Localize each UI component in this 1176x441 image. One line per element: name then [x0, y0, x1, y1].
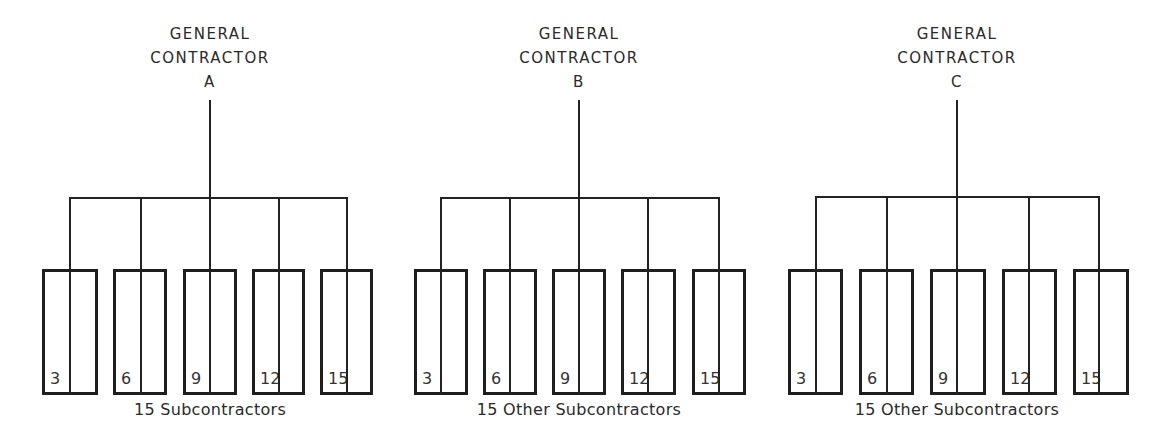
connector-drop — [509, 197, 511, 395]
connector-bar — [816, 196, 1100, 198]
contractor-letter: B — [479, 70, 679, 94]
contractor-letter: A — [110, 70, 310, 94]
subcontractor-count-label: 6 — [867, 369, 877, 388]
subcontractor-count-label: 9 — [938, 369, 948, 388]
title-line: CONTRACTOR — [857, 46, 1057, 70]
subcontractor-count-label: 6 — [491, 369, 501, 388]
contractor-org-diagram: GENERALCONTRACTORA369121515 Subcontracto… — [0, 0, 1176, 441]
subcontractor-box: 9 — [930, 269, 986, 395]
general-contractor-title: GENERALCONTRACTORC — [857, 22, 1057, 94]
connector-drop — [140, 197, 142, 395]
subcontractor-box: 15 — [1073, 269, 1129, 395]
connector-drop — [647, 197, 649, 395]
title-line: GENERAL — [110, 22, 310, 46]
title-line: GENERAL — [857, 22, 1057, 46]
connector-stem — [209, 100, 211, 197]
connector-stem — [956, 100, 958, 196]
subcontractor-box: 12 — [1002, 269, 1057, 395]
connector-drop — [209, 197, 211, 395]
title-line: CONTRACTOR — [110, 46, 310, 70]
subcontractor-count-label: 3 — [796, 369, 806, 388]
subcontractors-caption: 15 Subcontractors — [60, 400, 360, 419]
connector-drop — [440, 197, 442, 395]
connector-drop — [956, 196, 958, 395]
subcontractor-count-label: 9 — [560, 369, 570, 388]
subcontractor-box: 12 — [621, 269, 676, 395]
connector-drop — [1098, 196, 1100, 395]
subcontractor-count-label: 3 — [422, 369, 432, 388]
subcontractor-count-label: 9 — [191, 369, 201, 388]
connector-bar — [441, 197, 720, 199]
title-line: GENERAL — [479, 22, 679, 46]
connector-drop — [815, 196, 817, 395]
connector-drop — [346, 197, 348, 395]
subcontractor-count-label: 6 — [121, 369, 131, 388]
subcontractor-count-label: 3 — [50, 369, 60, 388]
title-line: CONTRACTOR — [479, 46, 679, 70]
connector-drop — [1028, 196, 1030, 395]
connector-drop — [718, 197, 720, 395]
general-contractor-title: GENERALCONTRACTORA — [110, 22, 310, 94]
connector-drop — [578, 197, 580, 395]
subcontractors-caption: 15 Other Subcontractors — [429, 400, 729, 419]
connector-stem — [578, 100, 580, 197]
contractor-letter: C — [857, 70, 1057, 94]
general-contractor-title: GENERALCONTRACTORB — [479, 22, 679, 94]
connector-drop — [886, 196, 888, 395]
connector-drop — [278, 197, 280, 395]
subcontractors-caption: 15 Other Subcontractors — [807, 400, 1107, 419]
connector-drop — [69, 197, 71, 395]
